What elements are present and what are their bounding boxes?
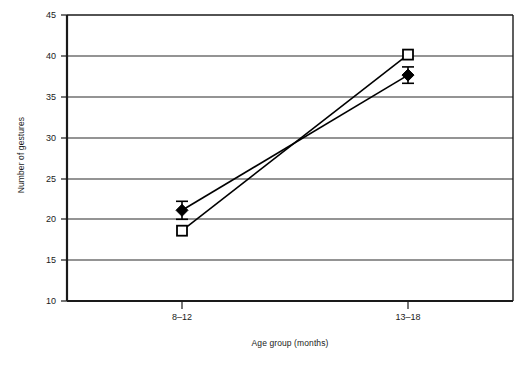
marker-open-square-8-12 — [177, 226, 187, 236]
marker-open-square-13-18 — [403, 50, 413, 60]
series-filled-diamond — [176, 67, 414, 219]
x-axis-ticks — [182, 301, 408, 309]
gridlines — [67, 56, 513, 260]
marker-filled-diamond-8-12 — [176, 204, 188, 216]
marker-filled-diamond-13-18 — [402, 69, 414, 81]
chart-figure: Number of gestures 45 40 35 30 25 20 15 … — [0, 0, 530, 366]
series-filled-diamond-line — [182, 75, 408, 210]
plot-area — [0, 0, 530, 366]
plot-frame — [67, 15, 513, 301]
